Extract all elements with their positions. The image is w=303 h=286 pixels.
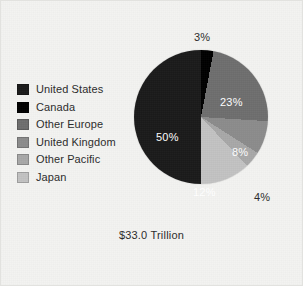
pie-graphic <box>134 50 268 184</box>
slice-label-canada: 3% <box>194 31 210 43</box>
slice-label-japan: 12% <box>193 186 216 198</box>
legend-item-united-kingdom: United Kingdom <box>17 134 116 152</box>
legend-label-united-states: United States <box>36 84 103 95</box>
slice-label-other-europe: 23% <box>220 96 243 108</box>
chart-caption: $33.0 Trillion <box>1 229 302 241</box>
pie-chart-figure: United States Canada Other Europe United… <box>0 0 303 286</box>
legend-label-canada: Canada <box>36 102 75 113</box>
legend-swatch-canada <box>17 102 29 113</box>
slice-label-united-states: 50% <box>156 131 179 143</box>
legend-item-united-states: United States <box>17 81 116 99</box>
legend-swatch-united-kingdom <box>17 137 29 148</box>
legend-label-japan: Japan <box>36 172 66 183</box>
legend-item-japan: Japan <box>17 169 116 187</box>
chart-legend: United States Canada Other Europe United… <box>17 81 116 186</box>
legend-item-other-europe: Other Europe <box>17 116 116 134</box>
legend-label-united-kingdom: United Kingdom <box>36 137 116 148</box>
legend-item-other-pacific: Other Pacific <box>17 151 116 169</box>
slice-label-other-pacific: 4% <box>254 191 270 203</box>
legend-item-canada: Canada <box>17 99 116 117</box>
legend-swatch-united-states <box>17 84 29 95</box>
legend-label-other-europe: Other Europe <box>36 119 103 130</box>
legend-label-other-pacific: Other Pacific <box>36 154 100 165</box>
legend-swatch-other-pacific <box>17 154 29 165</box>
pie-slices <box>134 50 268 184</box>
legend-swatch-japan <box>17 172 29 183</box>
legend-swatch-other-europe <box>17 119 29 130</box>
slice-label-united-kingdom: 8% <box>232 146 248 158</box>
